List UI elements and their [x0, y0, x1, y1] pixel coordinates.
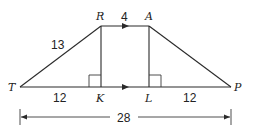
vertex-label-P: P	[233, 81, 242, 94]
vertex-label-K: K	[95, 92, 105, 105]
right-angle-marker-K	[89, 75, 101, 87]
label-segment-TK: 12	[53, 91, 67, 105]
trapezoid-diagram: R A T P K L 4 13 12 12 28	[0, 0, 257, 135]
dimension-arrow-right-icon	[224, 115, 230, 120]
vertex-label-T: T	[8, 81, 17, 94]
vertex-label-A: A	[144, 10, 153, 23]
label-top-base: 4	[121, 10, 128, 24]
label-bottom-base: 28	[117, 111, 131, 125]
right-angle-marker-L	[149, 75, 161, 87]
vertex-label-L: L	[144, 92, 152, 105]
label-segment-LP: 12	[183, 91, 197, 105]
vertex-label-R: R	[95, 10, 104, 23]
dimension-arrow-left-icon	[21, 115, 27, 120]
parallel-arrow-bottom-icon	[122, 84, 129, 90]
label-leg-TR: 13	[51, 38, 65, 52]
